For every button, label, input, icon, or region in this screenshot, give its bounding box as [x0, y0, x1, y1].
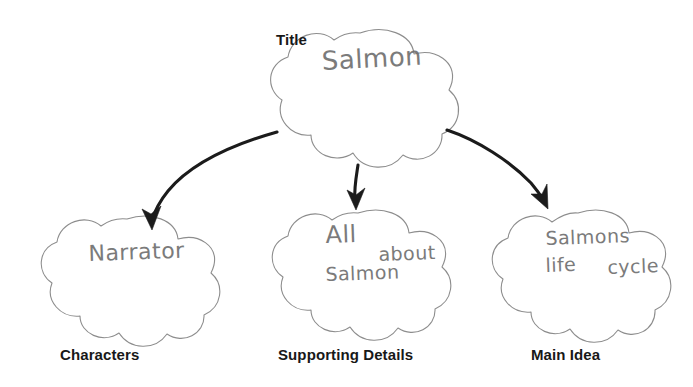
handwriting-main-idea-line3: cycle: [607, 254, 659, 278]
worksheet-canvas: Salmon Narrator All about Salmon Salmons…: [0, 0, 693, 387]
label-supporting-details: Supporting Details: [278, 346, 413, 363]
handwriting-title-salmon: Salmon: [321, 41, 423, 76]
handwriting-supporting-details-line3: Salmon: [325, 260, 400, 285]
handwriting-main-idea-line2: life: [545, 253, 577, 276]
arrow-title-to-main-idea: [447, 130, 548, 209]
handwriting-characters-narrator: Narrator: [88, 238, 185, 266]
label-main-idea: Main Idea: [531, 346, 600, 363]
cloud-shape-characters: [41, 216, 220, 346]
arrow-title-to-characters: [142, 132, 277, 230]
handwriting-main-idea-line1: Salmons: [545, 224, 630, 249]
label-title: Title: [276, 31, 307, 48]
handwriting-supporting-details-line1: All: [325, 220, 357, 249]
label-characters: Characters: [60, 346, 139, 363]
arrow-title-to-supporting-details: [347, 165, 365, 210]
